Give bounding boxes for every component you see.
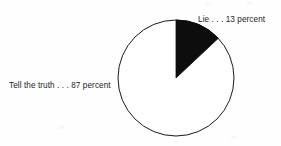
pie-label-lie: Lie . . . 13 percent <box>198 15 265 25</box>
pie-label-tell-the-truth: Tell the truth . . . 87 percent <box>9 81 111 91</box>
pie-chart-figure: Lie . . . 13 percent Tell the truth . . … <box>0 0 281 146</box>
